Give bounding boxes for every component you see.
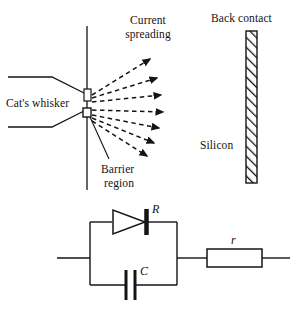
diode-triangle: [113, 210, 145, 234]
series-resistor-box: [207, 249, 262, 267]
cats-whisker-lower-edge: [8, 111, 84, 127]
contact-region-box: [84, 89, 91, 101]
label-current-spreading-line2: spreading: [113, 28, 183, 41]
current-spreading-arrows: [92, 59, 163, 156]
label-diode-resistance: R: [152, 203, 159, 216]
spread-arrow-2: [92, 78, 157, 98]
point-contact-diode-figure: Cat's whisker Current spreading Barrier …: [0, 0, 296, 313]
spread-arrow-4: [92, 110, 163, 112]
spread-arrow-3: [92, 95, 161, 102]
cats-whisker-upper-edge: [8, 77, 84, 93]
label-barrier-region-line1: Barrier: [101, 163, 134, 176]
back-contact-hatched-bar: [246, 31, 257, 183]
label-back-contact: Back contact: [211, 12, 272, 25]
label-current-spreading-line1: Current: [113, 14, 183, 27]
barrier-region-box: [83, 108, 91, 117]
barrier-region-leader-line: [90, 117, 109, 159]
label-capacitance: C: [140, 265, 148, 278]
label-barrier-region-line2: region: [104, 177, 134, 190]
label-cats-whisker: Cat's whisker: [6, 97, 69, 110]
label-silicon: Silicon: [200, 139, 233, 152]
spread-arrow-1: [92, 59, 150, 95]
label-series-resistance: r: [231, 234, 236, 247]
spread-arrow-6: [92, 118, 154, 143]
